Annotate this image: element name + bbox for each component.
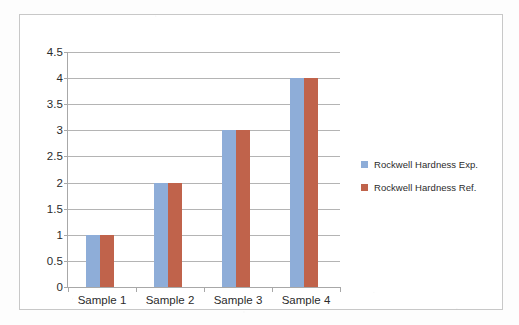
chart-figure: 00.511.522.533.544.5 Sample 1Sample 2Sam… bbox=[0, 0, 519, 325]
x-axis-label: Sample 2 bbox=[136, 294, 204, 306]
x-axis-tick-mark bbox=[340, 287, 341, 292]
bar[interactable] bbox=[236, 130, 250, 287]
y-axis-tick-label: 2.5 bbox=[23, 150, 63, 162]
x-axis-label: Sample 1 bbox=[68, 294, 136, 306]
legend-item-label: Rockwell Hardness Ref. bbox=[374, 182, 476, 193]
bar[interactable] bbox=[168, 183, 182, 287]
y-axis-tick-label: 3.5 bbox=[23, 98, 63, 110]
y-axis-tick-label: 3 bbox=[23, 124, 63, 136]
bar-group bbox=[204, 52, 272, 287]
bar[interactable] bbox=[304, 78, 318, 287]
legend-swatch-icon bbox=[361, 184, 368, 191]
x-axis-tick-mark bbox=[204, 287, 205, 292]
x-axis-tick-mark bbox=[136, 287, 137, 292]
y-axis-tick-label: 1.5 bbox=[23, 203, 63, 215]
bar[interactable] bbox=[154, 183, 168, 287]
bar-group bbox=[68, 52, 136, 287]
chart-legend: Rockwell Hardness Exp.Rockwell Hardness … bbox=[361, 155, 511, 201]
bar[interactable] bbox=[290, 78, 304, 287]
chart-frame: 00.511.522.533.544.5 Sample 1Sample 2Sam… bbox=[19, 14, 503, 310]
plot-area bbox=[68, 52, 340, 287]
x-axis-tick-mark bbox=[272, 287, 273, 292]
legend-item-label: Rockwell Hardness Exp. bbox=[374, 159, 478, 170]
x-axis-label: Sample 4 bbox=[272, 294, 340, 306]
legend-item[interactable]: Rockwell Hardness Ref. bbox=[361, 178, 511, 196]
y-axis-tick-label: 1 bbox=[23, 229, 63, 241]
legend-item[interactable]: Rockwell Hardness Exp. bbox=[361, 155, 511, 173]
y-axis-tick-label: 4 bbox=[23, 72, 63, 84]
bar-group bbox=[136, 52, 204, 287]
bar[interactable] bbox=[222, 130, 236, 287]
x-axis-label: Sample 3 bbox=[204, 294, 272, 306]
x-axis-labels: Sample 1Sample 2Sample 3Sample 4 bbox=[68, 294, 340, 312]
x-axis-tick-mark bbox=[68, 287, 69, 292]
y-axis-tick-label: 4.5 bbox=[23, 46, 63, 58]
y-axis-tick-label: 0 bbox=[23, 281, 63, 293]
bar[interactable] bbox=[100, 235, 114, 287]
bar[interactable] bbox=[86, 235, 100, 287]
y-axis-tick-label: 2 bbox=[23, 177, 63, 189]
y-axis-tick-labels: 00.511.522.533.544.5 bbox=[20, 52, 63, 287]
bar-group bbox=[272, 52, 340, 287]
y-axis-tick-label: 0.5 bbox=[23, 255, 63, 267]
legend-swatch-icon bbox=[361, 161, 368, 168]
